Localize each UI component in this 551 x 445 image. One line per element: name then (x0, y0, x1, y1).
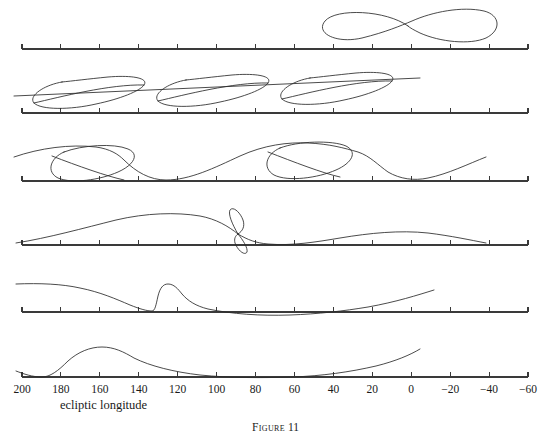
panel-1-ticks (22, 44, 528, 49)
tick-label-neg60: −60 (519, 383, 537, 395)
axis-tick-labels: 200 180 160 140 120 100 80 60 40 20 0 −2… (13, 383, 537, 395)
panel-2-loop-2 (157, 74, 269, 106)
panel-3-loop-1-cross (52, 156, 124, 180)
panel-4-wave-right (238, 232, 486, 245)
panel-4-bowtie-upper (229, 209, 243, 234)
tick-label-40: 40 (328, 383, 340, 395)
panel-3-wave-double-loop (14, 142, 528, 181)
tick-label-80: 80 (250, 383, 262, 395)
panel-4-bowtie-lower (235, 234, 248, 253)
figure-caption-word: Figure (252, 421, 285, 433)
tick-label-20: 20 (367, 383, 379, 395)
tick-label-100: 100 (208, 383, 226, 395)
panel-4-wave-left (16, 214, 238, 243)
panel-5-curve (16, 284, 434, 316)
panel-3-loop-1 (51, 145, 134, 180)
figure-plot-surface: 200 180 160 140 120 100 80 60 40 20 0 −2… (0, 0, 551, 445)
tick-label-neg40: −40 (480, 383, 498, 395)
tick-label-180: 180 (52, 383, 70, 395)
figure-caption: Figure 11 (0, 421, 551, 433)
figure-11-container: 200 180 160 140 120 100 80 60 40 20 0 −2… (0, 0, 551, 445)
tick-label-60: 60 (289, 383, 301, 395)
tick-label-0: 0 (408, 383, 414, 395)
panel-2-ticks (22, 108, 528, 113)
axis-caption-label: ecliptic longitude (60, 398, 147, 413)
panel-1-lemniscate (22, 9, 528, 49)
panel-3-wave (14, 143, 486, 180)
tick-label-120: 120 (169, 383, 187, 395)
tick-label-140: 140 (130, 383, 148, 395)
panel-6-smooth-hump (16, 347, 528, 378)
figure-caption-number: 11 (288, 421, 299, 433)
panel-6-curve (16, 347, 420, 378)
tick-label-neg20: −20 (441, 383, 459, 395)
panel-5-cusp-spike (16, 284, 528, 316)
panel-3-loop-2-cross (268, 152, 340, 177)
panel-5-ticks (22, 307, 528, 312)
tick-label-200: 200 (13, 383, 31, 395)
tick-label-160: 160 (91, 383, 109, 395)
panel-4-bowtie-cusp (16, 209, 528, 254)
panel-2-loop-3 (281, 72, 393, 104)
panel-6-ticks (22, 372, 528, 377)
panel-1-curve (322, 9, 497, 42)
panel-2-tilted-triple-loop (14, 72, 528, 113)
